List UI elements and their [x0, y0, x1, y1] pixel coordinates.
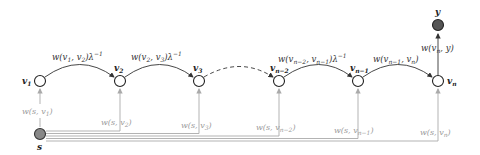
node-v1	[35, 76, 46, 87]
svg-text:w(s, v2): w(s, v2)	[101, 118, 132, 128]
node-vn-2	[274, 76, 285, 87]
label-y: y	[434, 7, 441, 17]
svg-text:v1: v1	[22, 76, 31, 87]
node-labels: v1 v2 v3 vn−2 vn−1 vn y s	[22, 7, 457, 152]
svg-text:vn−1: vn−1	[350, 63, 369, 74]
svg-text:w(v2, v3)λ−1: w(v2, v3)λ−1	[131, 50, 182, 63]
svg-text:w(vn, y): w(vn, y)	[421, 43, 454, 54]
svg-text:w(v1, v2)λ−1: w(v1, v2)λ−1	[52, 50, 103, 63]
label-s: s	[37, 142, 42, 152]
target-node-y	[433, 20, 444, 31]
source-node-s	[35, 129, 46, 140]
chain-diagram: w(s, v1) w(s, v2) w(s, v3) w(s, vn−2) w(…	[0, 0, 480, 155]
chain-edge-labels: w(v1, v2)λ−1 w(v2, v3)λ−1 w(vn−2, vn−1)λ…	[52, 43, 454, 65]
svg-text:vn−2: vn−2	[270, 63, 289, 74]
chain-nodes	[35, 76, 444, 87]
svg-text:w(vn−2, vn−1)λ−1: w(vn−2, vn−1)λ−1	[278, 52, 347, 65]
node-v2	[115, 76, 126, 87]
svg-text:v3: v3	[193, 63, 202, 74]
svg-text:w(vn−1, vn): w(vn−1, vn)	[373, 54, 419, 65]
svg-text:w(s, v1): w(s, v1)	[22, 107, 53, 117]
node-vn-1	[353, 76, 364, 87]
node-vn	[433, 76, 444, 87]
svg-text:w(s, vn−1): w(s, vn−1)	[334, 126, 374, 136]
svg-text:vn: vn	[447, 76, 457, 87]
svg-text:w(s, vn): w(s, vn)	[420, 128, 451, 138]
svg-text:w(s, vn−2): w(s, vn−2)	[256, 123, 296, 133]
node-v3	[194, 76, 205, 87]
source-bundle	[46, 131, 438, 141]
svg-text:v2: v2	[114, 63, 123, 74]
svg-text:w(s, v3): w(s, v3)	[181, 121, 212, 131]
